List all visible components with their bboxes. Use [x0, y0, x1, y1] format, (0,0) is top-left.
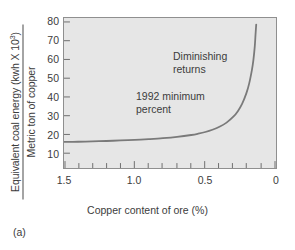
y-tick-label: 60 [35, 54, 59, 65]
figure-panel: Equivalent coal energy (kwh X 103) Metri… [0, 0, 295, 250]
x-tick-label: 0.5 [188, 175, 222, 186]
x-axis-tick-labels: 1.5 1.0 0.5 0 [0, 175, 295, 189]
annotation-diminishing-returns: Diminishing returns [173, 50, 227, 75]
y-tick-label: 70 [35, 35, 59, 46]
y-tick-label: 20 [35, 130, 59, 141]
x-tick-label: 1.0 [117, 175, 151, 186]
y-tick-label: 50 [35, 73, 59, 84]
data-curve-line [64, 25, 256, 142]
annotation-line: returns [173, 63, 227, 76]
panel-label: (a) [13, 226, 26, 238]
y-axis-label-numerator: Equivalent coal energy (kwh X 103) [7, 32, 22, 192]
annotation-line: percent [136, 103, 205, 116]
y-tick-label: 30 [35, 111, 59, 122]
y-tick-label: 80 [35, 16, 59, 27]
y-tick-label: 10 [35, 149, 59, 160]
y-axis-label-exponent: 3 [9, 35, 16, 39]
x-axis-title: Copper content of ore (%) [0, 204, 295, 216]
annotation-1992-minimum-percent: 1992 minimum percent [136, 90, 205, 115]
annotation-line: Diminishing [173, 50, 227, 63]
y-axis-label-numerator-text: Equivalent coal energy (kwh X 10 [9, 39, 21, 192]
annotation-line: 1992 minimum [136, 90, 205, 103]
x-tick-label: 0 [259, 175, 293, 186]
y-tick-label: 40 [35, 92, 59, 103]
y-axis-label-numerator-close: ) [9, 32, 21, 35]
x-tick-label: 1.5 [47, 175, 81, 186]
fraction-bar [22, 25, 23, 200]
